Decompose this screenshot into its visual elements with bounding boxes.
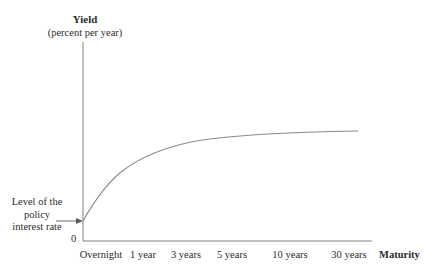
yield-curve-figure: Yield (percent per year) Level of the po…	[0, 0, 427, 278]
x-tick-label-30-years: 30 years	[331, 249, 366, 260]
x-tick-label-3-years: 3 years	[171, 249, 201, 260]
x-tick-label-10-years: 10 years	[272, 249, 307, 260]
annotation-arrow-head	[76, 218, 83, 224]
x-tick-label-1-year: 1 year	[130, 249, 156, 260]
plot-area	[0, 0, 427, 278]
policy-rate-annotation-line-3: interest rate	[2, 221, 72, 234]
policy-rate-annotation: Level of the policy interest rate	[2, 196, 72, 234]
policy-rate-annotation-line-2: policy	[2, 209, 72, 222]
policy-rate-annotation-line-1: Level of the	[2, 196, 72, 209]
x-tick-label-5-years: 5 years	[217, 249, 247, 260]
yield-curve-line	[83, 131, 358, 221]
x-axis-title: Maturity	[379, 249, 420, 262]
x-tick-label-overnight: Overnight	[80, 249, 123, 260]
origin-label: 0	[71, 233, 76, 246]
